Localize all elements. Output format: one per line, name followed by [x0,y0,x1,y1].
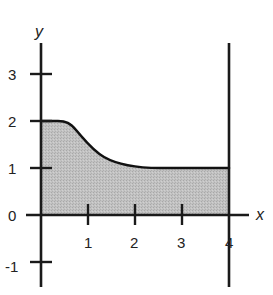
y-tick-label-2: 2 [8,113,16,130]
x-axis-label: x [255,206,265,223]
y-tick-label-0: 0 [8,207,16,224]
y-tick-label-neg1: -1 [5,258,18,275]
x-tick-label-3: 3 [177,234,185,251]
x-tick-label-2: 2 [130,234,138,251]
x-tick-label-1: 1 [84,234,92,251]
plot-svg: y x 3 2 1 0 -1 1 2 3 4 [0,0,273,295]
y-tick-label-1: 1 [8,160,16,177]
x-tick-label-4: 4 [225,234,233,251]
area-under-curve-figure: y x 3 2 1 0 -1 1 2 3 4 [0,0,273,295]
y-axis-label: y [34,23,44,40]
y-tick-label-3: 3 [8,66,16,83]
